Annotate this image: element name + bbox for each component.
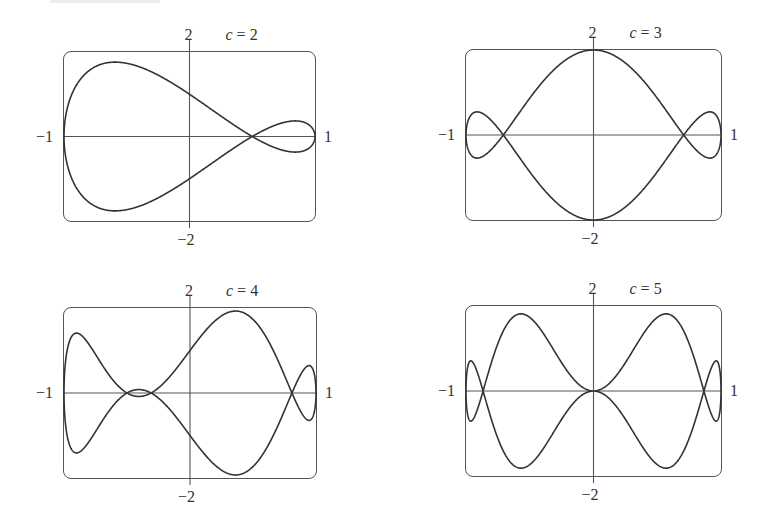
plot-svg bbox=[0, 0, 759, 520]
c-equals: = 5 bbox=[641, 280, 662, 297]
x-min-label: −1 bbox=[438, 383, 455, 399]
x-max-label: 1 bbox=[730, 383, 738, 399]
c-value-label: c = 5 bbox=[630, 281, 662, 297]
y-max-label: 2 bbox=[589, 281, 597, 297]
y-min-label: −2 bbox=[582, 487, 599, 503]
figure-canvas: 2 −2 −1 1 c = 2 2 −2 −1 1 c = 3 2 −2 −1 … bbox=[0, 0, 759, 520]
c-variable: c bbox=[630, 280, 637, 297]
